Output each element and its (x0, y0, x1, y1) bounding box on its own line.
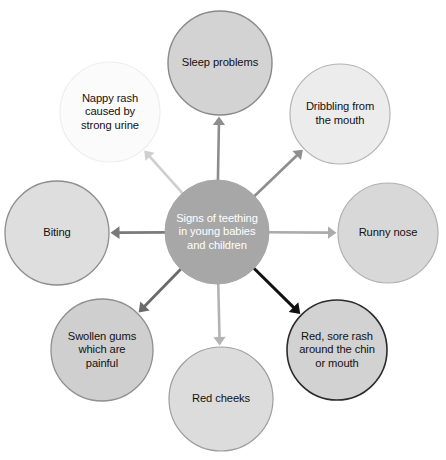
node-circle-red-cheeks[interactable] (169, 347, 273, 451)
node-circle-center[interactable] (165, 180, 269, 284)
circles-layer (5, 11, 438, 451)
diagram-canvas (0, 0, 446, 460)
node-circle-sleep-problems[interactable] (168, 11, 272, 115)
node-circle-red-sore-rash[interactable] (287, 300, 387, 400)
node-circle-swollen-gums[interactable] (51, 299, 153, 401)
arrow-to-dribbling (254, 150, 303, 197)
arrow-to-biting (111, 226, 167, 239)
arrow-to-swollen-gums (139, 269, 182, 313)
arrow-to-red-cheeks (213, 283, 225, 346)
arrow-to-sleep-problems (213, 116, 225, 181)
node-circle-biting[interactable] (5, 181, 109, 285)
node-circle-dribbling-from-the-mouth[interactable] (290, 64, 390, 164)
teething-signs-diagram: Signs of teethingin young babiesand chil… (0, 0, 446, 460)
node-circle-runny-nose[interactable] (338, 183, 438, 283)
arrow-to-red-sore-rash (253, 268, 300, 314)
node-circle-nappy-rash[interactable] (60, 62, 160, 162)
arrow-to-nappy-rash (144, 150, 183, 193)
arrow-to-runny-nose (268, 227, 337, 239)
